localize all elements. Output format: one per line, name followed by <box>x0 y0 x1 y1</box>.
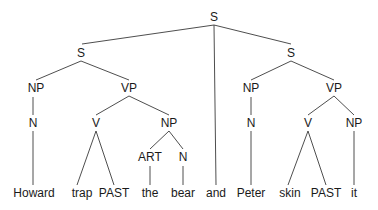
node-np3: NP <box>243 81 260 95</box>
node-n1: N <box>29 116 38 130</box>
tree-edge <box>81 61 129 80</box>
word-w_it: it <box>351 186 358 200</box>
node-np4: NP <box>346 116 363 130</box>
tree-edge <box>36 61 81 80</box>
node-s_right: S <box>287 46 295 60</box>
tree-edge <box>291 61 334 80</box>
word-w_howard: Howard <box>13 186 54 200</box>
node-vp1: VP <box>121 81 137 95</box>
word-w_bear: bear <box>171 186 195 200</box>
tree-edge <box>288 131 308 185</box>
syntax-tree-diagram: SSSNPVPNPVPNVNPNVNPARTNHowardtrapPASTthe… <box>0 0 378 210</box>
word-w_and: and <box>206 186 226 200</box>
node-art: ART <box>138 150 162 164</box>
tree-edge <box>334 96 354 115</box>
tree-edge <box>308 131 326 185</box>
word-w_skin: skin <box>279 186 300 200</box>
word-w_the: the <box>142 186 159 200</box>
tree-edge <box>308 96 334 115</box>
node-s_root: S <box>210 10 218 24</box>
tree-edge <box>77 131 96 185</box>
node-np1: NP <box>28 81 45 95</box>
node-vp2: VP <box>326 81 342 95</box>
word-w_trap: trap <box>72 186 93 200</box>
tree-edge <box>96 131 114 185</box>
node-n2: N <box>179 150 188 164</box>
tree-edge <box>96 96 129 115</box>
tree-edge <box>129 96 169 115</box>
word-w_past2: PAST <box>311 186 342 200</box>
node-s_left: S <box>77 46 85 60</box>
tree-edge <box>251 61 291 80</box>
tree-edge <box>82 25 214 44</box>
node-np2: NP <box>161 116 178 130</box>
word-w_past1: PAST <box>99 186 130 200</box>
tree-edge <box>169 131 183 149</box>
tree-nodes: SSSNPVPNPVPNVNPNVNPARTNHowardtrapPASTthe… <box>13 10 362 200</box>
node-v2: V <box>304 116 312 130</box>
tree-edge <box>150 131 169 149</box>
node-v1: V <box>92 116 100 130</box>
node-n3: N <box>247 116 256 130</box>
word-w_peter: Peter <box>237 186 266 200</box>
tree-edge <box>214 25 216 185</box>
tree-edge <box>214 25 291 44</box>
